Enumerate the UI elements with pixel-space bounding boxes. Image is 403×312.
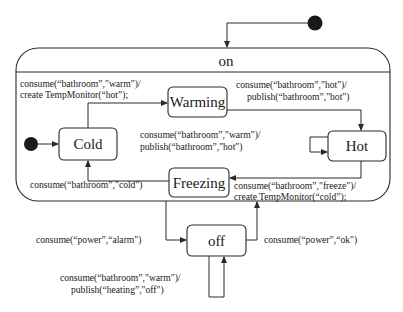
label-warming-to-hot-line2: publish(“bathroom”,"hot")	[247, 91, 349, 103]
label-freezing-to-cold: consume(“bathroom”,"cold")	[30, 179, 143, 191]
label-off-self-line1: consume(“bathroom”,"warm")/	[60, 272, 181, 284]
label-hot-to-freezing-line2: create TempMonitor(“cold”);	[234, 191, 346, 203]
label-hot-self-line2: publish(“bathroom”,"hot")	[140, 141, 242, 153]
state-warming-label: Warming	[170, 94, 226, 110]
edge-off-self	[209, 256, 224, 297]
state-cold-label: Cold	[73, 136, 103, 152]
state-warming: Warming	[168, 87, 227, 117]
state-off: off	[187, 225, 246, 256]
edge-initial-to-on	[227, 23, 308, 47]
edge-off-to-on	[246, 202, 257, 240]
label-off-to-on: consume(“power”,“ok")	[264, 234, 357, 246]
label-cold-to-warming-line2: create TempMonitor(“hot”);	[20, 89, 128, 101]
state-off-label: off	[208, 233, 225, 249]
label-warming-to-hot-line1: consume(“bathroom”,"hot")/	[236, 79, 347, 91]
initial-node-on	[24, 137, 38, 151]
initial-node-top	[308, 16, 323, 31]
state-freezing: Freezing	[169, 168, 229, 197]
label-on-to-off: consume(“power”,“alarm")	[36, 234, 141, 246]
state-freezing-label: Freezing	[173, 175, 226, 191]
state-hot-label: Hot	[346, 138, 369, 154]
state-hot: Hot	[328, 131, 386, 161]
composite-state-on-title: on	[219, 53, 235, 69]
state-diagram: on Cold Warming Hot Freezing off consume…	[0, 0, 403, 312]
label-hot-self-line1: consume(“bathroom”,"warm")/	[140, 129, 261, 141]
label-off-self-line2: publish(“heating”,"off")	[71, 284, 164, 296]
edge-on-to-off	[166, 201, 186, 240]
state-cold: Cold	[59, 128, 117, 160]
